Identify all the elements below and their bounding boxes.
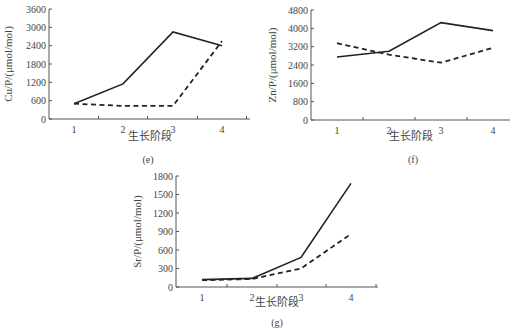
y-tick-label: 1200: [153, 208, 173, 219]
y-tick-label: 3000: [26, 22, 46, 33]
x-tick-label: 4: [220, 124, 225, 135]
y-axis-title: Cu/P/(μmol/mol): [2, 26, 15, 102]
x-tick-label: 2: [250, 292, 255, 303]
y-tick-label: 4800: [288, 5, 308, 16]
y-tick-label: 0: [303, 115, 308, 126]
y-tick-label: 2400: [288, 60, 308, 71]
y-tick-label: 900: [158, 226, 173, 237]
chart-cu-p: 0600120018002400300036001234生长阶段Cu/P/(μm…: [2, 4, 250, 167]
series-line-solid: [202, 183, 351, 279]
x-tick-label: 4: [349, 292, 354, 303]
y-tick-label: 1200: [26, 77, 46, 88]
y-tick-label: 3200: [288, 41, 308, 52]
series-line-solid: [74, 32, 222, 104]
x-axis-title: 生长阶段: [389, 129, 433, 142]
y-tick-label: 800: [293, 96, 308, 107]
panel-label: (e): [142, 154, 153, 166]
panel-label: (g): [271, 317, 283, 329]
series-line-solid: [337, 23, 493, 57]
panel-label: (f): [408, 154, 418, 166]
x-axis-title: 生长阶段: [255, 295, 299, 308]
series-line-dashed: [74, 41, 222, 106]
y-tick-label: 1600: [288, 78, 308, 89]
y-tick-label: 2400: [26, 40, 46, 51]
y-tick-label: 0: [41, 114, 46, 125]
y-tick-label: 4000: [288, 23, 308, 34]
y-tick-label: 1800: [26, 59, 46, 70]
y-tick-label: 1500: [153, 189, 173, 200]
y-axis-title: Sr/P/(μmol/mol): [131, 195, 144, 268]
x-tick-label: 3: [299, 292, 304, 303]
x-tick-label: 3: [439, 125, 444, 136]
chart-sr-p: 03006009001200150018001234生长阶段Sr/P/(μmol…: [131, 171, 378, 329]
y-tick-label: 3600: [26, 4, 46, 15]
y-tick-label: 0: [168, 282, 173, 293]
x-axis-title: 生长阶段: [128, 129, 172, 142]
y-tick-label: 1800: [153, 171, 173, 182]
y-tick-label: 300: [158, 263, 173, 274]
y-axis-title: Zn/P/(μmol/mol): [266, 27, 279, 102]
x-tick-label: 1: [335, 125, 340, 136]
figure-canvas: 0600120018002400300036001234生长阶段Cu/P/(μm…: [0, 0, 513, 329]
series-line-dashed: [337, 43, 493, 63]
x-tick-label: 1: [200, 292, 205, 303]
x-tick-label: 1: [72, 124, 77, 135]
x-tick-label: 4: [491, 125, 496, 136]
y-tick-label: 600: [31, 95, 46, 106]
x-tick-label: 2: [121, 124, 126, 135]
y-tick-label: 600: [158, 245, 173, 256]
series-line-dashed: [202, 234, 351, 280]
chart-zn-p: 0800160024003200400048001234生长阶段Zn/P/(μm…: [266, 5, 510, 167]
